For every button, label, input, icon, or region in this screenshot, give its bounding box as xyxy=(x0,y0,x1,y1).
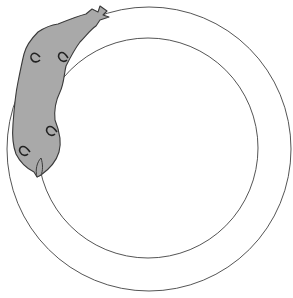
creature-icon xyxy=(13,6,109,177)
ring-diagram xyxy=(0,0,293,298)
inner-ring-circle xyxy=(38,38,258,258)
